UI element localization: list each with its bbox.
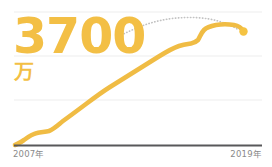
x-axis-start-label: 2007年	[13, 150, 45, 159]
line-chart-canvas	[0, 0, 272, 167]
main-trend-line	[15, 24, 243, 145]
x-axis-end-label: 2019年	[230, 150, 262, 159]
end-point-marker	[239, 27, 247, 35]
infographic-chart-card: 3700 万 2007年 2019年	[0, 0, 272, 167]
dotted-trend-line	[116, 17, 238, 38]
